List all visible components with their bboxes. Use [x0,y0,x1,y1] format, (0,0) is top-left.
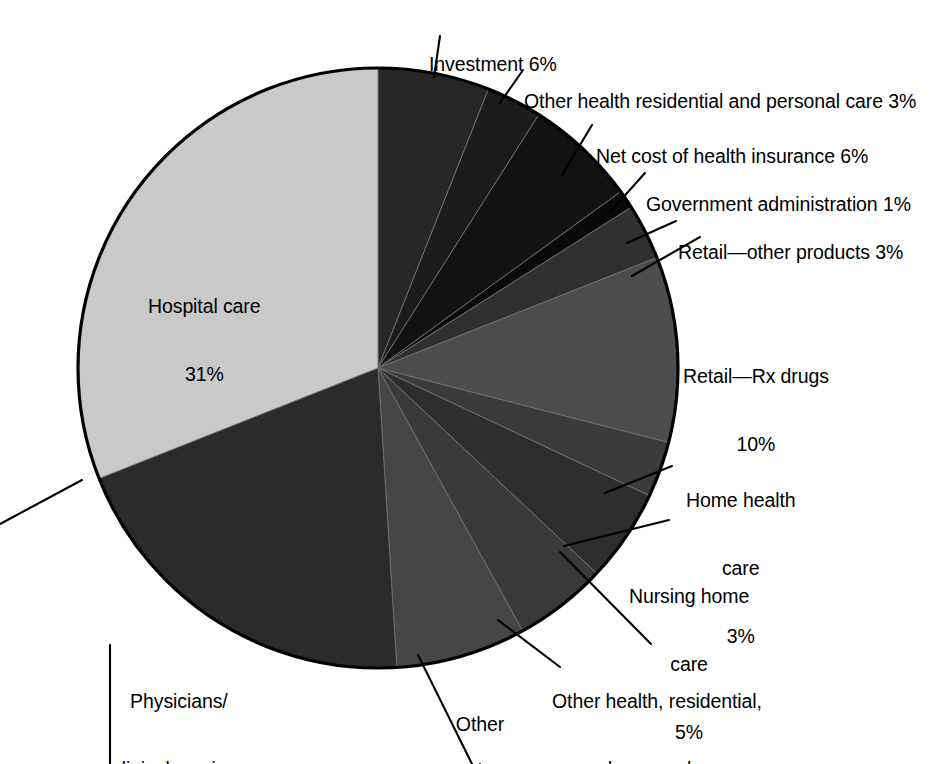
slice-label-hospital-line2: 31% [148,363,261,386]
pie-chart: Investment 6% Other health residential a… [0,0,947,764]
slice-label-retail-other-products: Retail—other products 3% [678,196,903,309]
slice-label-physicians-line2: clinical services [112,758,246,764]
slice-label-retail-other-line1: Retail—other products 3% [678,241,903,264]
slice-label-other-prof-line1: Other [428,713,532,736]
slice-label-other-hrp-line1: Other health, residential, [552,690,762,713]
slice-label-hospital-care: Hospital care 31% [148,250,261,431]
slice-label-other-health-residential-personal-care: Other health, residential, and personal … [552,645,762,764]
leader-line-hospital [0,480,82,524]
slice-label-retail-rx-line1: Retail—Rx drugs [683,365,829,388]
slice-label-physicians-clinical-services: Physicians/ clinical services 20% [112,645,246,764]
slice-label-physicians-line1: Physicians/ [112,690,246,713]
slice-label-hospital-line1: Hospital care [148,295,261,318]
slice-label-home-health-line1: Home health [686,489,795,512]
slice-label-other-hrp-line2: and personal care [552,758,762,764]
slice-label-other-professional-services: Other professional services 7% [428,668,532,764]
slice-label-nursing-home-line1: Nursing home [629,585,749,608]
